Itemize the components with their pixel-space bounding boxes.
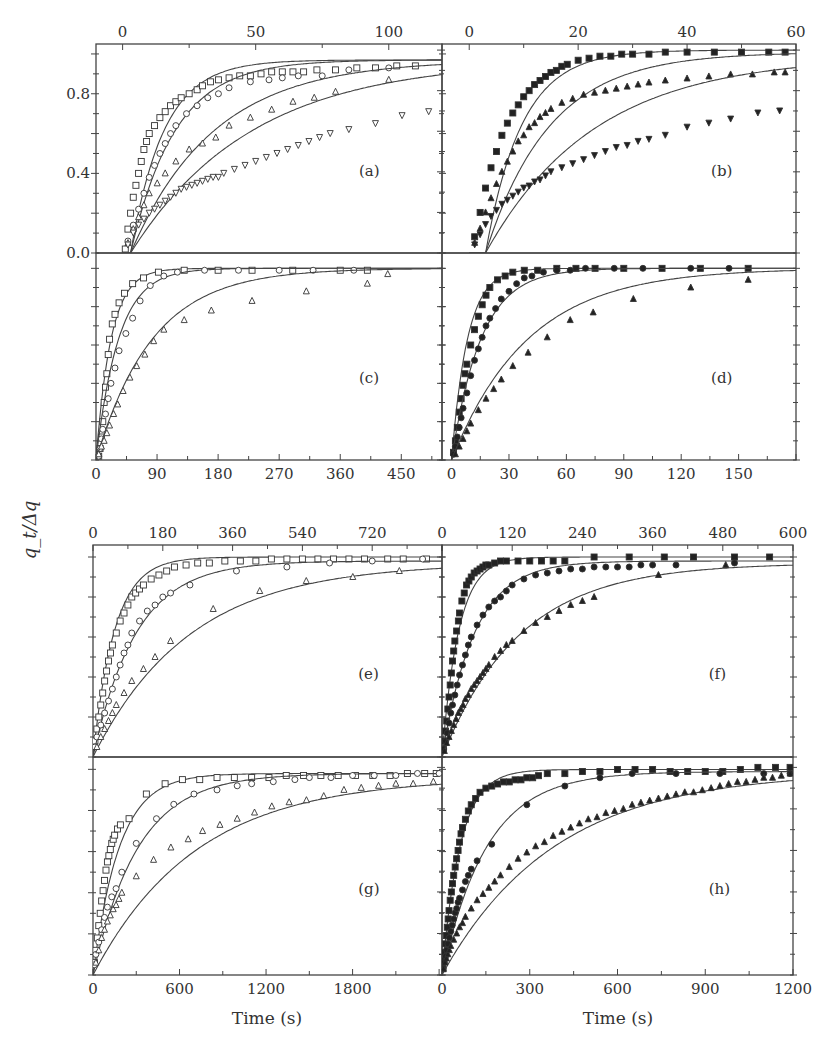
data-point-square <box>459 825 465 831</box>
data-point-square <box>562 771 568 777</box>
data-point-triangle-down <box>242 162 248 168</box>
data-point-square <box>711 49 717 55</box>
data-point-triangle-up <box>630 296 636 302</box>
panel-frame <box>93 545 442 757</box>
data-point-circle <box>144 608 150 614</box>
data-point-circle <box>640 265 646 271</box>
data-point-circle <box>615 564 621 570</box>
data-point-triangle-up <box>474 897 480 903</box>
data-point-circle <box>109 894 115 900</box>
data-point-square <box>739 49 745 55</box>
x-tick-label: 60 <box>786 23 805 41</box>
data-point-triangle-up <box>491 386 497 392</box>
data-point-square <box>133 182 139 188</box>
data-point-square <box>448 670 454 676</box>
data-point-square <box>462 816 468 822</box>
data-point-circle <box>393 773 399 779</box>
data-point-square <box>105 352 111 358</box>
x-tick-label: 180 <box>204 465 233 483</box>
data-point-triangle-up <box>620 805 626 811</box>
data-point-triangle-up <box>691 789 697 795</box>
x-tick-label: 50 <box>246 23 265 41</box>
data-point-triangle-up <box>151 856 157 862</box>
data-point-triangle-up <box>541 839 547 845</box>
data-point-circle <box>247 79 253 85</box>
data-point-triangle-up <box>410 780 416 786</box>
x-tick-label: 0 <box>88 980 98 998</box>
data-point-triangle-up <box>635 81 641 87</box>
panel-frame <box>442 757 793 975</box>
panel-f: 0120240360480600(f) <box>437 524 807 757</box>
data-point-circle <box>113 674 119 680</box>
data-point-circle <box>116 348 122 354</box>
data-point-circle <box>465 872 471 878</box>
data-point-triangle-up <box>393 780 399 786</box>
data-point-square <box>117 618 123 624</box>
data-point-circle <box>493 306 499 312</box>
data-point-triangle-up <box>213 134 219 140</box>
data-point-circle <box>489 841 495 847</box>
panel-label-d: (d) <box>711 369 732 387</box>
data-point-square <box>536 773 542 779</box>
data-point-triangle-up <box>385 271 391 277</box>
data-point-circle <box>173 123 179 129</box>
data-point-square <box>128 210 134 216</box>
data-point-square <box>333 67 339 73</box>
data-point-square <box>479 302 485 308</box>
data-point-square <box>186 91 192 97</box>
data-point-circle <box>171 801 177 807</box>
data-point-triangle-up <box>303 288 309 294</box>
data-point-triangle-down <box>346 127 352 133</box>
data-point-triangle-down <box>755 110 761 116</box>
data-point-square <box>772 764 778 770</box>
data-point-circle <box>414 770 420 776</box>
y-tick-label: 0.4 <box>66 164 90 182</box>
data-point-circle <box>475 346 481 352</box>
data-point-triangle-up <box>579 598 585 604</box>
data-point-circle <box>270 779 276 785</box>
data-point-square <box>314 67 320 73</box>
data-point-circle <box>492 598 498 604</box>
x-tick-label: 120 <box>667 465 696 483</box>
data-point-circle <box>123 331 129 337</box>
data-point-circle <box>533 572 539 578</box>
data-point-triangle-up <box>249 297 255 303</box>
data-point-triangle-up <box>576 820 582 826</box>
x-tick-label: 270 <box>265 465 294 483</box>
data-point-square <box>126 816 132 822</box>
data-point-circle <box>673 562 679 568</box>
data-point-triangle-up <box>533 843 539 849</box>
data-point-circle <box>125 642 131 648</box>
data-point-square <box>102 877 108 883</box>
x-tick-label: 360 <box>326 465 355 483</box>
data-point-circle <box>98 722 104 728</box>
data-point-circle <box>137 618 143 624</box>
data-point-square <box>450 658 456 664</box>
data-point-circle <box>136 206 142 212</box>
data-point-triangle-up <box>492 878 498 884</box>
data-point-triangle-down <box>157 202 163 208</box>
data-point-circle <box>468 866 474 872</box>
data-point-triangle-up <box>498 648 504 654</box>
data-point-triangle-up <box>154 180 160 186</box>
data-point-circle <box>448 710 454 716</box>
x-tick-label: 480 <box>708 524 737 542</box>
data-point-triangle-up <box>140 666 146 672</box>
data-point-circle <box>152 162 158 168</box>
data-point-square <box>461 590 467 596</box>
data-point-circle <box>464 390 470 396</box>
fit-curve <box>93 568 442 757</box>
data-point-square <box>515 558 521 564</box>
data-point-triangle-up <box>602 87 608 93</box>
x-tick-label: 30 <box>499 465 518 483</box>
data-point-square <box>447 682 453 688</box>
data-point-square <box>162 781 168 787</box>
data-point-circle <box>509 582 515 588</box>
data-point-triangle-up <box>269 803 275 809</box>
data-point-circle <box>717 771 723 777</box>
data-point-square <box>98 702 104 708</box>
data-point-square <box>494 277 500 283</box>
data-point-square <box>222 558 228 564</box>
data-point-triangle-up <box>173 158 179 164</box>
data-point-circle <box>603 564 609 570</box>
